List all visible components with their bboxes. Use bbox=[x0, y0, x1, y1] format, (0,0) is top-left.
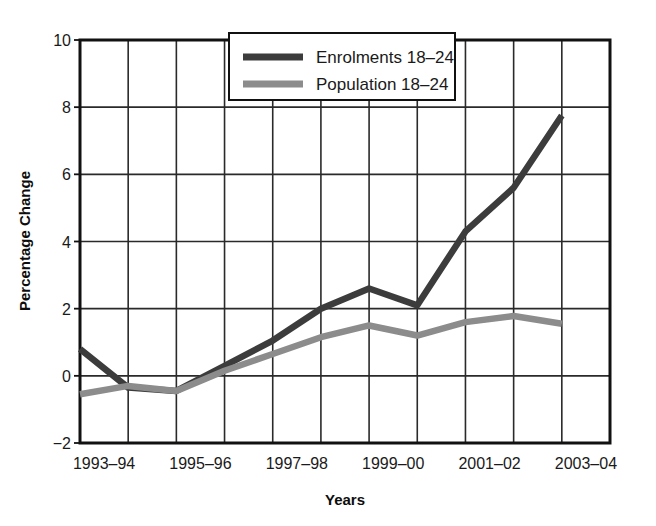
y-tick-label: 0 bbox=[62, 368, 71, 385]
x-tick-label: 1993–94 bbox=[73, 455, 135, 472]
legend: Enrolments 18–24 Population 18–24 bbox=[229, 33, 455, 100]
y-tick-label: 10 bbox=[53, 32, 71, 49]
y-tick-label: 6 bbox=[62, 166, 71, 183]
x-tick-label: 1999–00 bbox=[362, 455, 424, 472]
legend-label-population: Population 18–24 bbox=[316, 75, 448, 94]
y-tick-label: 4 bbox=[62, 234, 71, 251]
y-axis-title: Percentage Change bbox=[16, 171, 33, 311]
chart-svg: −20246810 1993–941995–961997–981999–0020… bbox=[0, 0, 656, 526]
y-tick-label: 8 bbox=[62, 99, 71, 116]
x-tick-label: 1995–96 bbox=[169, 455, 231, 472]
y-tick-label: 2 bbox=[62, 301, 71, 318]
x-tick-label: 2003–04 bbox=[555, 455, 617, 472]
legend-label-enrolments: Enrolments 18–24 bbox=[316, 48, 454, 67]
line-chart: −20246810 1993–941995–961997–981999–0020… bbox=[0, 0, 656, 526]
x-axis-title: Years bbox=[325, 491, 365, 508]
y-tick-label: −2 bbox=[53, 435, 71, 452]
x-tick-label: 2001–02 bbox=[458, 455, 520, 472]
x-tick-label: 1997–98 bbox=[266, 455, 328, 472]
